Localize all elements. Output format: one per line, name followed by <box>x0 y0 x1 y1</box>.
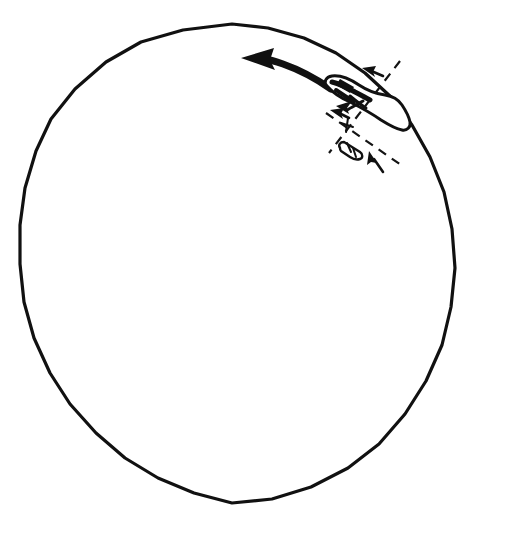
background <box>0 0 505 546</box>
diagram-svg <box>0 0 505 546</box>
diagram-canvas <box>0 0 505 546</box>
